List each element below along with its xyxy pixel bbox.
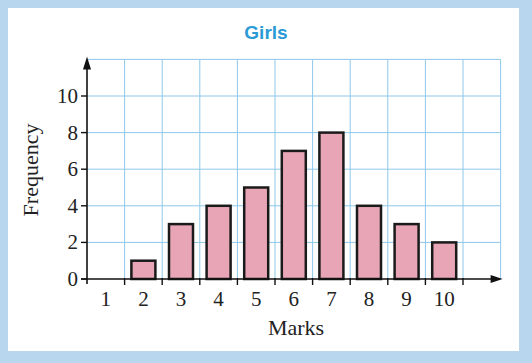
y-tick-label: 0 bbox=[68, 267, 79, 291]
x-tick-label: 7 bbox=[326, 287, 337, 311]
x-tick-label: 8 bbox=[364, 287, 375, 311]
bar-7 bbox=[319, 133, 343, 279]
bar-chart: 024681012345678910 Marks Frequency bbox=[0, 0, 532, 363]
bar-5 bbox=[244, 188, 268, 280]
x-tick-label: 3 bbox=[176, 287, 187, 311]
bar-10 bbox=[432, 242, 456, 279]
y-tick-label: 2 bbox=[68, 230, 79, 254]
x-tick-label: 5 bbox=[251, 287, 262, 311]
bar-2 bbox=[131, 261, 155, 279]
y-tick-label: 6 bbox=[68, 157, 79, 181]
bar-9 bbox=[395, 224, 419, 279]
x-tick-label: 6 bbox=[289, 287, 300, 311]
y-tick-label: 8 bbox=[68, 121, 79, 145]
y-tick-label: 4 bbox=[68, 194, 79, 218]
y-axis-arrow-icon bbox=[83, 56, 91, 69]
bar-6 bbox=[282, 151, 306, 279]
x-tick-label: 9 bbox=[401, 287, 412, 311]
y-axis-label: Frequency bbox=[18, 124, 43, 217]
x-tick-label: 1 bbox=[101, 287, 112, 311]
bar-8 bbox=[357, 206, 381, 279]
y-tick-label: 10 bbox=[57, 84, 78, 108]
x-axis-label: Marks bbox=[268, 315, 324, 340]
bar-3 bbox=[169, 224, 193, 279]
x-tick-label: 2 bbox=[138, 287, 149, 311]
x-tick-label: 10 bbox=[434, 287, 455, 311]
x-tick-label: 4 bbox=[213, 287, 224, 311]
bar-4 bbox=[207, 206, 231, 279]
